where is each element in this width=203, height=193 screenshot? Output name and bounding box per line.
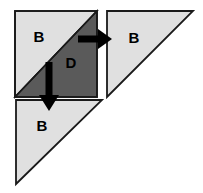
arrow-right-shaft: [78, 36, 100, 43]
label-b-bottom-triangle: B: [37, 117, 48, 134]
diagram-canvas: B D B B: [0, 0, 203, 193]
label-b-right-triangle: B: [129, 29, 140, 46]
source-square-group[interactable]: [15, 11, 97, 97]
label-d-square: D: [66, 54, 77, 71]
label-b-square: B: [34, 28, 45, 45]
geometry-diagram: B D B B: [0, 0, 203, 193]
arrow-down-shaft: [46, 62, 53, 97]
